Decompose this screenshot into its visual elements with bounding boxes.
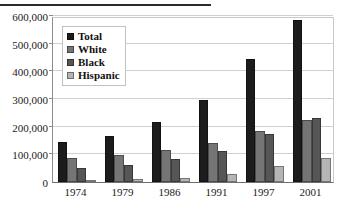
y-axis-tick-label: 200,000 [12, 122, 48, 134]
bar [227, 174, 237, 182]
gridline [53, 15, 333, 16]
y-axis-tick-label: 600,000 [12, 11, 48, 23]
top-divider-rule [0, 4, 211, 6]
bar [86, 180, 96, 182]
bar-chart: 0100,000200,000300,000400,000500,000600,… [0, 0, 345, 210]
bar [255, 131, 265, 182]
x-axis-tick-label: 2001 [300, 186, 322, 198]
legend-swatch-total [67, 33, 74, 40]
bar [67, 158, 77, 182]
bar-group [147, 18, 194, 182]
bar [152, 122, 162, 182]
bar [208, 143, 218, 182]
legend-item-black: Black [67, 56, 120, 68]
bar [180, 178, 190, 182]
bar-group [288, 18, 335, 182]
y-axis-tick-label: 500,000 [12, 39, 48, 51]
bar [77, 168, 87, 182]
bar [274, 166, 284, 182]
legend-label-black: Black [78, 56, 105, 68]
legend-swatch-hispanic [67, 72, 74, 79]
bar [199, 100, 209, 182]
bar [58, 142, 68, 182]
bar [133, 179, 143, 182]
x-axis-tick-label: 1979 [112, 186, 134, 198]
bar [171, 159, 181, 182]
bar [114, 155, 124, 182]
chart-legend: Total White Black Hispanic [62, 26, 126, 86]
x-axis-tick-label: 1997 [253, 186, 275, 198]
legend-swatch-black [67, 59, 74, 66]
bar [302, 120, 312, 182]
y-axis-labels: 0100,000200,000300,000400,000500,000600,… [0, 17, 48, 183]
bar-group [194, 18, 241, 182]
x-axis-labels: 197419791986199119972001 [52, 186, 334, 206]
bar-group [241, 18, 288, 182]
legend-item-hispanic: Hispanic [67, 69, 120, 81]
legend-item-white: White [67, 43, 120, 55]
bar [246, 59, 256, 182]
y-axis-tick-label: 300,000 [12, 94, 48, 106]
x-axis-tick-label: 1974 [65, 186, 87, 198]
bar [124, 165, 134, 182]
bar [312, 118, 322, 182]
legend-item-total: Total [67, 30, 120, 42]
bar [265, 134, 275, 182]
y-axis-tick-label: 400,000 [12, 66, 48, 78]
y-axis-tick [49, 15, 53, 16]
bar [321, 158, 331, 182]
bar [105, 136, 115, 182]
bar [161, 150, 171, 182]
legend-label-white: White [78, 43, 107, 55]
bar [293, 20, 303, 182]
y-axis-tick-label: 100,000 [12, 149, 48, 161]
y-axis-tick-label: 0 [43, 177, 49, 189]
x-axis-tick-label: 1991 [206, 186, 228, 198]
x-axis-tick-label: 1986 [159, 186, 181, 198]
bar [218, 151, 228, 182]
legend-label-total: Total [78, 30, 102, 42]
legend-swatch-white [67, 46, 74, 53]
legend-label-hispanic: Hispanic [78, 69, 120, 81]
